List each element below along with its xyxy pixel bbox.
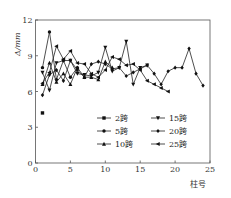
- y-tick-label: 0: [27, 159, 32, 168]
- x-axis: 0510152025: [33, 161, 215, 175]
- y-tick-label: 12: [22, 16, 32, 25]
- x-tick-label: 10: [100, 165, 110, 174]
- x-tick-label: 25: [205, 165, 215, 174]
- legend-item: 2跨: [97, 114, 128, 123]
- legend-label: 20跨: [169, 127, 187, 136]
- legend-item: 15跨: [151, 114, 187, 123]
- legend-item: 20跨: [151, 127, 187, 136]
- legend-item: 25跨: [151, 140, 187, 149]
- y-tick-label: 9: [27, 52, 32, 61]
- chart: 0510152025 036912 2跨5跨10跨15跨20跨25跨 柱号 Δ/…: [0, 0, 231, 198]
- x-tick-label: 20: [170, 165, 180, 174]
- legend-label: 15跨: [169, 114, 187, 123]
- x-tick-label: 5: [68, 165, 73, 174]
- y-tick-label: 6: [27, 88, 32, 97]
- x-axis-label: 柱号: [190, 179, 206, 189]
- legend-label: 5跨: [115, 127, 128, 136]
- series-lines: [40, 30, 204, 114]
- x-tick-label: 15: [135, 165, 145, 174]
- legend-label: 10跨: [115, 140, 133, 149]
- legend: 2跨5跨10跨15跨20跨25跨: [97, 114, 187, 149]
- legend-label: 2跨: [115, 114, 128, 123]
- legend-item: 5跨: [97, 127, 128, 136]
- series-2跨: [41, 111, 44, 114]
- legend-label: 25跨: [169, 140, 187, 149]
- x-tick-label: 0: [33, 165, 38, 174]
- y-axis-label: Δ/mm: [13, 32, 22, 57]
- legend-item: 10跨: [97, 140, 133, 149]
- y-tick-label: 3: [27, 123, 32, 132]
